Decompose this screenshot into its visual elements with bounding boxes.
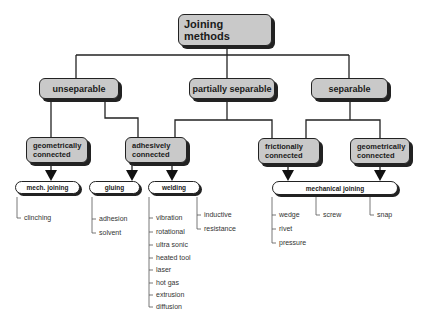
node-gluing: gluing [89, 181, 140, 194]
node-mechanical-joining: mechanical joining [272, 181, 398, 195]
node-partially-separable: partially separable [189, 78, 275, 99]
leaf-pressure: pressure [279, 239, 306, 246]
leaf-screw: screw [323, 211, 341, 218]
leaf-clinching: clinching [24, 214, 51, 221]
node-unseparable: unseparable [39, 78, 119, 99]
node-geometrically-connected-right: geometrically connected [350, 138, 410, 164]
node-label: unseparable [52, 84, 105, 94]
node-label-line2: connected [132, 151, 170, 160]
node-adhesively-connected: adhesively connected [125, 137, 187, 163]
node-label: gluing [105, 184, 125, 191]
root-label: Joining methods [184, 18, 271, 42]
leaf-solvent: solvent [99, 229, 121, 236]
leaf-rivet: rivet [279, 225, 292, 232]
leaf-inductive: inductive [204, 211, 232, 218]
node-label: partially separable [192, 84, 271, 94]
leaf-diffusion: diffusion [156, 303, 182, 310]
node-label: separable [328, 84, 370, 94]
node-label: welding [162, 184, 186, 191]
leaf-rotational: rotational [156, 228, 185, 235]
node-label: mech. joining [27, 184, 69, 191]
node-frictionally-connected: frictionally connected [258, 138, 320, 164]
node-label-line2: connected [33, 151, 71, 160]
node-label: mechanical joining [306, 185, 365, 192]
leaf-laser: laser [156, 266, 171, 273]
leaf-adhesion: adhesion [99, 215, 127, 222]
node-label-line2: connected [265, 152, 303, 161]
node-welding: welding [148, 181, 200, 194]
node-geometrically-connected-left: geometrically connected [26, 137, 88, 163]
leaf-heated-tool: heated tool [156, 254, 191, 261]
node-separable: separable [311, 78, 388, 99]
leaf-hot-gas: hot gas [156, 279, 179, 286]
connector-lines [0, 0, 428, 330]
leaf-extrusion: extrusion [156, 291, 184, 298]
leaf-resistance: resistance [204, 225, 236, 232]
leaf-vibration: vibration [156, 214, 182, 221]
leaf-wedge: wedge [279, 211, 300, 218]
node-label-line2: connected [357, 152, 395, 161]
leaf-snap: snap [377, 211, 392, 218]
leaf-ultra-sonic: ultra sonic [156, 241, 188, 248]
root-node-joining-methods: Joining methods [178, 14, 272, 46]
node-mech-joining: mech. joining [15, 181, 80, 194]
